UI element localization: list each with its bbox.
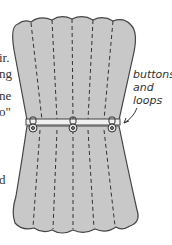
callout-line: loops [133, 94, 172, 107]
buttons-and-loops-label: buttons and loops [133, 68, 172, 107]
shade-illustration [0, 0, 172, 245]
lower-fabric-panel [13, 126, 138, 233]
callout-line: and [133, 81, 172, 94]
upper-fabric-panel [13, 17, 136, 120]
callout-line: buttons [133, 68, 172, 81]
callout-arrow-icon [124, 108, 137, 123]
